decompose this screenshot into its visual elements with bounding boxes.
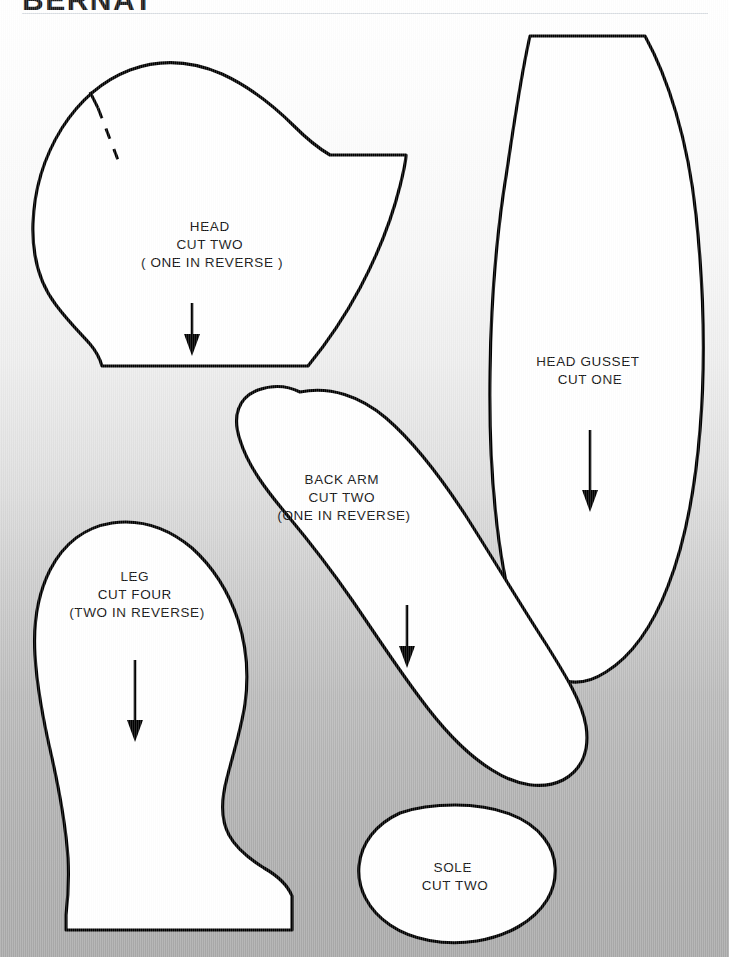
- leg-label-line2: CUT FOUR: [98, 587, 172, 602]
- leg-label-line3: (TWO IN REVERSE): [69, 605, 205, 620]
- sole-label-line1: SOLE: [434, 860, 472, 875]
- pattern-sheet-page: BERNAT HEAD GUSSET CUT ONE: [0, 0, 729, 957]
- back-arm-label-line2: CUT TWO: [308, 490, 375, 505]
- leg-outline: [35, 522, 292, 930]
- pattern-piece-head-gusset[interactable]: HEAD GUSSET CUT ONE: [490, 36, 704, 682]
- head-gusset-label-line1: HEAD GUSSET: [536, 354, 639, 369]
- head-gusset-label-line2: CUT ONE: [558, 372, 623, 387]
- back-arm-label-line1: BACK ARM: [305, 472, 380, 487]
- pattern-piece-leg[interactable]: LEG CUT FOUR (TWO IN REVERSE): [35, 522, 292, 930]
- pattern-piece-head[interactable]: HEAD CUT TWO ( ONE IN REVERSE ): [33, 63, 406, 366]
- sole-label-line2: CUT TWO: [422, 878, 489, 893]
- head-label-line3: ( ONE IN REVERSE ): [141, 255, 283, 270]
- head-outline: [33, 63, 406, 366]
- back-arm-label-line3: (ONE IN REVERSE): [277, 508, 410, 523]
- head-label-line2: CUT TWO: [176, 237, 243, 252]
- pattern-pieces-canvas: HEAD GUSSET CUT ONE HEAD CUT TWO ( ONE I…: [0, 0, 729, 957]
- head-label-line1: HEAD: [190, 219, 230, 234]
- pattern-piece-sole[interactable]: SOLE CUT TWO: [359, 805, 556, 943]
- leg-label-line1: LEG: [120, 569, 149, 584]
